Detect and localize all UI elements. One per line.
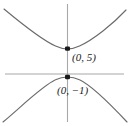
vertex-label-lower: (0, −1) xyxy=(57,85,88,96)
hyperbola-upper-branch xyxy=(4,9,126,49)
vertex-point-lower xyxy=(65,75,70,79)
graph-canvas xyxy=(0,0,129,126)
vertex-point-upper xyxy=(65,46,70,50)
hyperbola-figure: (0, 5) (0, −1) xyxy=(0,0,129,126)
vertex-label-upper: (0, 5) xyxy=(72,52,96,63)
